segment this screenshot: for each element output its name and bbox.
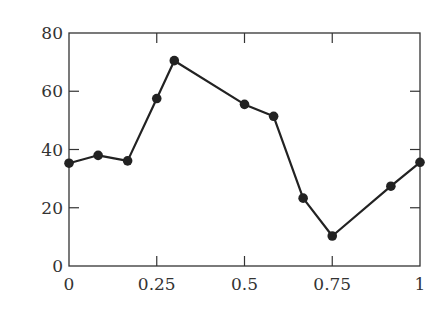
- y-tick-label: 60: [41, 81, 63, 101]
- data-point-marker: [64, 158, 74, 168]
- data-point-marker: [93, 151, 103, 161]
- data-series: [64, 56, 425, 241]
- data-point-marker: [386, 181, 396, 191]
- data-point-marker: [152, 94, 162, 104]
- x-tick-label: 0.5: [231, 274, 258, 294]
- x-tick-label: 0.25: [138, 274, 176, 294]
- series-line: [69, 61, 420, 236]
- plot-frame: [69, 33, 420, 266]
- y-tick-label: 20: [41, 198, 63, 218]
- data-point-marker: [170, 56, 180, 66]
- data-point-marker: [327, 231, 337, 241]
- y-tick-label: 40: [41, 140, 63, 160]
- data-point-marker: [269, 111, 279, 121]
- y-axis-tick-labels: 020406080: [41, 23, 63, 276]
- x-tick-label: 0: [64, 274, 75, 294]
- data-point-marker: [415, 158, 425, 168]
- data-point-marker: [298, 193, 308, 203]
- y-tick-label: 0: [52, 256, 63, 276]
- line-chart: 020406080 00.250.50.751: [0, 0, 444, 309]
- axis-ticks: [69, 33, 420, 266]
- data-point-marker: [240, 100, 250, 110]
- x-axis-tick-labels: 00.250.50.751: [64, 274, 426, 294]
- x-tick-label: 1: [415, 274, 426, 294]
- x-tick-label: 0.75: [313, 274, 351, 294]
- y-tick-label: 80: [41, 23, 63, 43]
- data-point-marker: [123, 156, 133, 166]
